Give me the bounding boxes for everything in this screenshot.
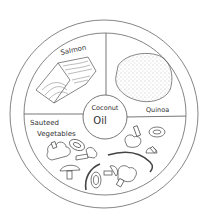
center-label-line1: Coconut	[92, 104, 119, 112]
section-label-quinoa: Quinoa	[146, 106, 169, 114]
section-label-salmon: Salmon	[60, 44, 87, 57]
section-label-vegetables-line1: Sauteed	[30, 119, 59, 127]
section-label-vegetables-line2: Vegetables	[37, 130, 76, 138]
quinoa-pile-icon	[116, 53, 172, 101]
center-label-line2: Oil	[93, 115, 106, 126]
plate-diagram: Coconut Oil Salmon Quinoa Sauteed Vegeta…	[0, 0, 206, 224]
salmon-fillet-icon	[36, 57, 96, 103]
